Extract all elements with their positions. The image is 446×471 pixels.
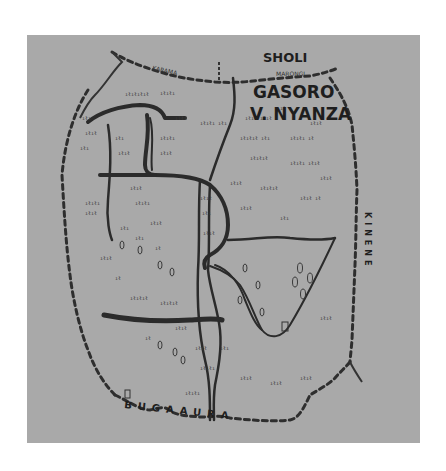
svg-text:ıłıłı ıłıł: ıłıłı ıłıł <box>290 160 320 166</box>
svg-text:ıłı: ıłı <box>220 345 229 351</box>
svg-text:ıłı: ıłı <box>202 210 211 216</box>
svg-text:ıłıł: ıłıł <box>160 150 172 156</box>
svg-text:ıłıł: ıłıł <box>85 130 97 136</box>
svg-text:ıłı: ıłı <box>82 115 91 121</box>
label-gasoro: GASORO <box>253 82 334 102</box>
svg-text:ıłıł ıł: ıłıł ıł <box>300 195 321 201</box>
svg-text:ıł: ıł <box>115 275 121 281</box>
svg-text:ıłıł: ıłıł <box>200 195 212 201</box>
svg-text:ıłıłı: ıłıłı <box>160 135 175 141</box>
svg-text:ıłıł: ıłıł <box>118 150 130 156</box>
svg-text:ıł: ıł <box>155 245 161 251</box>
svg-text:ıłıłıł: ıłıłıł <box>260 185 278 191</box>
svg-text:ıłı: ıłı <box>135 235 144 241</box>
svg-text:ıłıł: ıłıł <box>300 375 312 381</box>
svg-text:ıłı: ıłı <box>80 145 89 151</box>
label-v-nyanza: V. NYANZA <box>250 104 352 124</box>
svg-text:ıłı: ıłı <box>120 225 129 231</box>
svg-text:ıłıłı: ıłıłı <box>185 390 200 396</box>
svg-text:ıłıłı: ıłıłı <box>200 365 215 371</box>
label-kinene: KINENE <box>363 212 372 270</box>
label-bugaaura: BUGAAURA <box>124 399 235 422</box>
svg-text:ıłıł: ıłıł <box>320 315 332 321</box>
svg-text:ıłıł: ıłıł <box>195 345 207 351</box>
vegetation-marks: ıłıłıłıł ıłıłı ılłı ıłıłı ıłı ıłıł ıłıł … <box>80 90 332 396</box>
svg-text:ıłıł: ıłıł <box>240 375 252 381</box>
svg-text:ıłıłıł: ıłıłıł <box>130 295 148 301</box>
svg-text:ıłıłı ıł: ıłıłı ıł <box>290 135 314 141</box>
svg-text:ıłıł: ıłıł <box>130 185 142 191</box>
svg-text:ılłı: ılłı <box>175 115 187 121</box>
svg-text:ıłıłı: ıłıłı <box>135 200 150 206</box>
hand-drawn-map: ıłıłıłıł ıłıłı ılłı ıłıłı ıłı ıłıł ıłıł … <box>0 0 446 471</box>
svg-text:ıłıł: ıłıł <box>320 175 332 181</box>
house-symbol-west <box>125 390 130 398</box>
svg-text:ıłıłıł: ıłıłıł <box>160 300 178 306</box>
svg-text:ıłıł: ıłıł <box>175 325 187 331</box>
svg-text:ıł: ıł <box>145 335 151 341</box>
svg-text:ıłıłı: ıłıłı <box>160 90 175 96</box>
svg-text:ıłı: ıłı <box>115 135 124 141</box>
label-marongi: MARONGI <box>276 70 305 77</box>
svg-text:ıłıłı ıłı: ıłıłı ıłı <box>200 120 227 126</box>
label-sholi: SHOLI <box>263 50 307 65</box>
svg-text:ıłıłıł ıłı: ıłıłıł ıłı <box>240 135 270 141</box>
svg-text:ıłıł: ıłıł <box>270 380 282 386</box>
tree-symbols <box>120 241 313 364</box>
svg-text:ıłıł: ıłıł <box>150 220 162 226</box>
svg-text:ıłıł: ıłıł <box>100 255 112 261</box>
svg-text:ıłıł: ıłıł <box>85 210 97 216</box>
svg-text:ıłıł: ıłıł <box>203 230 215 236</box>
svg-text:ıłıłı: ıłıłı <box>85 200 100 206</box>
svg-text:ıłıł: ıłıł <box>240 205 252 211</box>
svg-text:ıłıł: ıłıł <box>230 180 242 186</box>
svg-text:ıłıłıł: ıłıłıł <box>250 155 268 161</box>
svg-text:ıłı: ıłı <box>280 215 289 221</box>
svg-text:ıłıłıłıł: ıłıłıłıł <box>125 91 149 97</box>
